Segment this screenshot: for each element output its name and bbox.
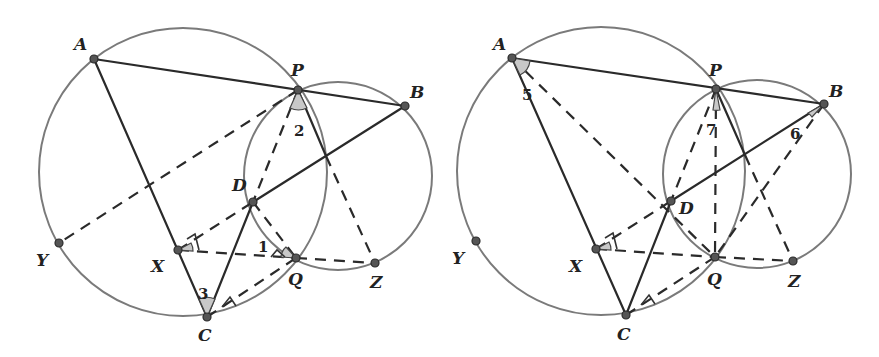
label-d: D	[231, 175, 247, 195]
point-b	[401, 102, 409, 110]
label-a: A	[72, 34, 87, 54]
label-q: Q	[288, 269, 303, 289]
point-d	[667, 197, 675, 205]
dashed-pq	[715, 89, 716, 257]
segment-p-to-circle	[716, 89, 745, 155]
geometry-figure: A P B D X Q Z C Y 2 1 3	[0, 0, 879, 357]
point-c	[203, 313, 211, 321]
point-a	[508, 54, 516, 62]
circumcircle-apc	[39, 28, 327, 316]
label-p: P	[290, 60, 305, 80]
label-p: P	[708, 60, 723, 80]
diagram-canvas: A P B D X Q Z C Y 2 1 3	[0, 0, 879, 357]
point-y	[55, 239, 63, 247]
point-p	[294, 86, 302, 94]
dashed-qz	[296, 258, 375, 263]
label-b: B	[828, 81, 843, 101]
segment-db	[671, 104, 824, 201]
label-d: D	[678, 198, 694, 218]
label-c: C	[198, 325, 212, 345]
point-b	[820, 100, 828, 108]
segment-ab	[512, 58, 824, 104]
point-x	[592, 245, 600, 253]
angle-number-5: 5	[522, 86, 532, 104]
point-q	[292, 254, 300, 262]
segment-ac	[94, 59, 207, 317]
label-x: X	[568, 256, 583, 276]
dashed-bq	[715, 104, 824, 257]
label-x: X	[150, 256, 165, 276]
angle-number-2: 2	[294, 122, 304, 140]
angle-number-3: 3	[198, 285, 208, 303]
dashed-py	[59, 90, 298, 243]
dashed-xd	[596, 201, 671, 249]
segment-cd	[626, 201, 671, 315]
left-figure: A P B D X Q Z C Y 2 1 3	[36, 28, 432, 345]
segment-db	[253, 106, 405, 202]
label-z: Z	[787, 271, 801, 291]
angle-number-7: 7	[706, 121, 716, 139]
point-y	[472, 237, 480, 245]
dashed-cq	[626, 257, 715, 315]
point-z	[789, 257, 797, 265]
label-q: Q	[707, 269, 722, 289]
right-figure: A P B D X Q Z C Y 5 7 6	[452, 27, 851, 344]
dashed-cq	[207, 258, 296, 317]
label-a: A	[491, 34, 506, 54]
label-y: Y	[452, 248, 466, 268]
point-p	[712, 85, 720, 93]
dashed-xd	[178, 202, 253, 250]
dashed-pz	[745, 155, 793, 261]
angle-number-6: 6	[790, 125, 800, 143]
segment-ab	[94, 59, 405, 106]
label-b: B	[409, 82, 424, 102]
label-c: C	[617, 324, 631, 344]
point-x	[174, 246, 182, 254]
label-z: Z	[369, 272, 383, 292]
dashed-xq	[596, 249, 715, 257]
point-d	[249, 198, 257, 206]
dashed-qz	[715, 257, 793, 261]
dashed-aq	[512, 58, 715, 257]
dashed-pz	[326, 156, 375, 263]
point-z	[371, 259, 379, 267]
point-a	[90, 55, 98, 63]
point-c	[622, 311, 630, 319]
label-y: Y	[36, 250, 50, 270]
point-q	[711, 253, 719, 261]
angle-number-1: 1	[258, 238, 268, 256]
